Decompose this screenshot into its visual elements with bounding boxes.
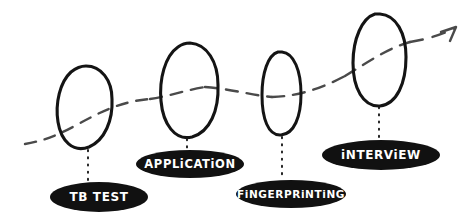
process-diagram: TB TEST APPLiCATiON FiNGERPRiNTiNG iNTER… (0, 0, 476, 224)
stage-label-4: iNTERViEW (341, 148, 421, 162)
stage-label-1: TB TEST (70, 190, 129, 204)
stage-label-3: FiNGERPRiNTiNG (237, 188, 345, 200)
diagram-canvas: TB TEST APPLiCATiON FiNGERPRiNTiNG iNTER… (0, 0, 476, 224)
stage-label-2: APPLiCATiON (144, 157, 235, 171)
